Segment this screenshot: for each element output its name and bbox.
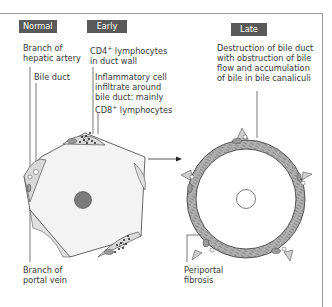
hepatic-artery-top xyxy=(68,139,77,144)
portal-vein-bottom-right xyxy=(105,250,114,255)
ring-duct-bottom-left xyxy=(210,248,214,252)
progression-arrow xyxy=(148,157,182,162)
normal-lobule xyxy=(24,132,146,257)
ring-duct-left xyxy=(190,175,194,179)
artery-left xyxy=(34,170,39,175)
ring-vessel-left xyxy=(188,184,192,193)
ring-vessel-right xyxy=(297,173,301,181)
central-vein-late xyxy=(237,190,256,209)
diagram-canvas xyxy=(0,0,332,307)
ring-duct-right xyxy=(301,181,305,185)
ring-vessel-bottom-right xyxy=(272,249,281,254)
central-vein-normal xyxy=(75,192,92,209)
ring-vessel-top xyxy=(233,139,242,144)
late-fibrotic-lobule xyxy=(181,128,312,261)
ring-vessel-bottom-left xyxy=(203,239,209,247)
ring-duct-bottom-right xyxy=(282,247,286,251)
portal-vein-left xyxy=(27,184,31,192)
bile-duct-left xyxy=(28,175,32,179)
ring-duct-top xyxy=(243,135,247,139)
